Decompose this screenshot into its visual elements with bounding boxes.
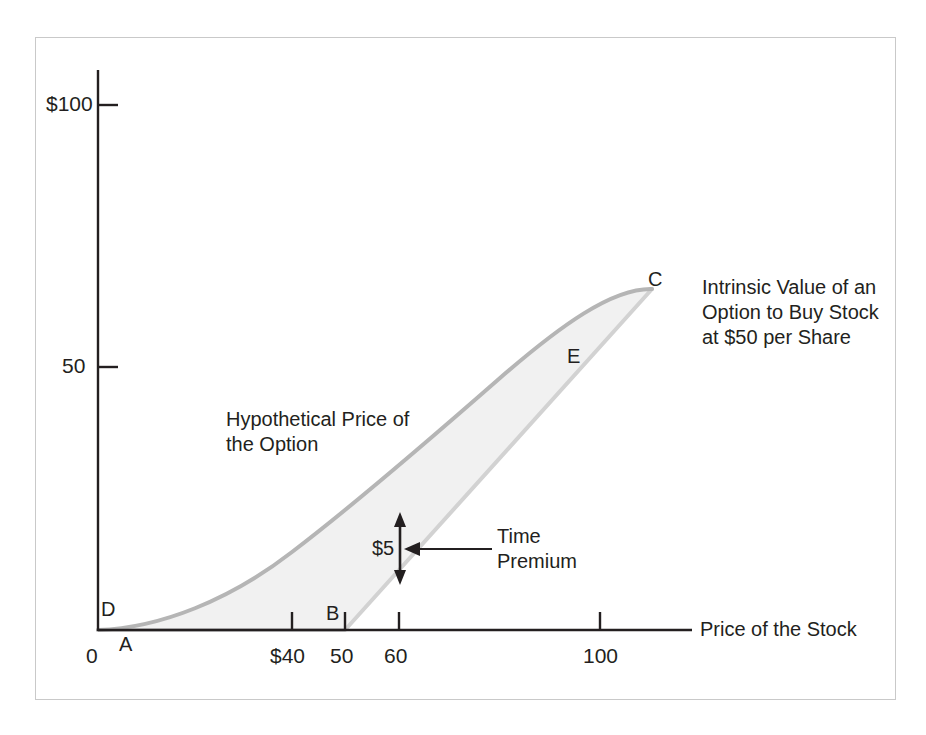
point-label-e: E bbox=[567, 345, 580, 369]
point-label-d: D bbox=[101, 598, 115, 622]
x-tick-label-40: $40 bbox=[270, 644, 305, 669]
x-axis-title: Price of the Stock bbox=[700, 618, 857, 642]
y-tick-label-50: 50 bbox=[62, 354, 85, 379]
intrinsic-value-note: Intrinsic Value of an Option to Buy Stoc… bbox=[702, 275, 879, 350]
x-tick-label-50: 50 bbox=[330, 644, 353, 669]
hypothetical-price-note: Hypothetical Price of the Option bbox=[226, 407, 409, 457]
x-tick-label-60: 60 bbox=[384, 644, 407, 669]
point-label-a: A bbox=[119, 633, 132, 657]
time-premium-note: Time Premium bbox=[497, 524, 577, 574]
x-tick-label-100: 100 bbox=[583, 644, 618, 669]
x-tick-label-0: 0 bbox=[86, 644, 98, 669]
y-tick-label-100: $100 bbox=[46, 92, 93, 117]
point-label-c: C bbox=[648, 268, 662, 292]
time-premium-leader-arrow bbox=[404, 542, 492, 556]
time-premium-amount-label: $5 bbox=[372, 537, 394, 561]
time-premium-shaded-region bbox=[98, 289, 652, 630]
figure-root: $100 50 0 $40 50 60 100 Price of the Sto… bbox=[0, 0, 926, 735]
point-label-b: B bbox=[326, 602, 339, 626]
